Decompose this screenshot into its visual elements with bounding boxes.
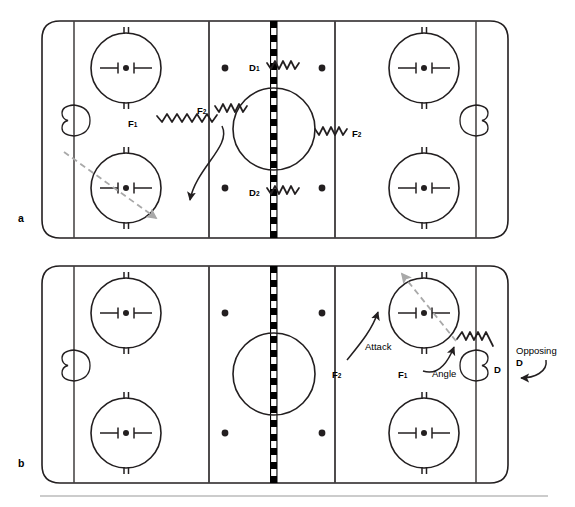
goal-crease-left-a bbox=[62, 105, 90, 136]
figure-root: a F1 F2 F2 D1 D2 b F2 F1 D Attack Angle … bbox=[0, 0, 575, 507]
goal-crease-right-b bbox=[460, 350, 488, 381]
goal-crease-left-b bbox=[62, 350, 90, 381]
f2-right-stick-a bbox=[315, 127, 347, 135]
faceoff-circle-top-left-a bbox=[91, 27, 161, 109]
f2-left-stick-a bbox=[215, 104, 247, 112]
neutral-dot-top-left-b bbox=[222, 310, 229, 317]
neutral-dot-top-left-a bbox=[222, 65, 229, 72]
neutral-dot-bottom-right-a bbox=[319, 185, 326, 192]
center-line-b bbox=[270, 266, 278, 483]
neutral-dot-bottom-left-b bbox=[222, 430, 229, 437]
goal-crease-right-a bbox=[460, 105, 488, 136]
hockey-diagram-svg bbox=[0, 0, 575, 507]
faceoff-circle-top-right-a bbox=[389, 27, 459, 109]
dashed-pass-arrow-a bbox=[64, 152, 156, 218]
neutral-dot-top-right-a bbox=[319, 65, 326, 72]
dashed-shot-arrow-b bbox=[402, 274, 456, 341]
panel-a bbox=[42, 21, 508, 238]
neutral-dot-top-right-b bbox=[319, 310, 326, 317]
faceoff-circle-top-left-b bbox=[91, 272, 161, 354]
faceoff-circle-bottom-left-b bbox=[91, 392, 161, 474]
angle-arrow-b bbox=[423, 347, 454, 372]
faceoff-circle-bottom-right-a bbox=[389, 147, 459, 229]
panel-b bbox=[42, 266, 546, 483]
faceoff-circle-top-right-b bbox=[389, 272, 459, 354]
f1-squiggle-arrow-a bbox=[157, 114, 224, 200]
opposing-d-stick-b bbox=[457, 332, 493, 346]
faceoff-circle-bottom-left-a bbox=[91, 147, 161, 229]
neutral-dot-bottom-left-a bbox=[222, 185, 229, 192]
center-line-a bbox=[270, 21, 278, 238]
opposing-d-pointer-b bbox=[521, 360, 546, 378]
faceoff-circle-bottom-right-b bbox=[389, 392, 459, 474]
neutral-dot-bottom-right-b bbox=[319, 430, 326, 437]
attack-arrow-b bbox=[347, 312, 378, 360]
